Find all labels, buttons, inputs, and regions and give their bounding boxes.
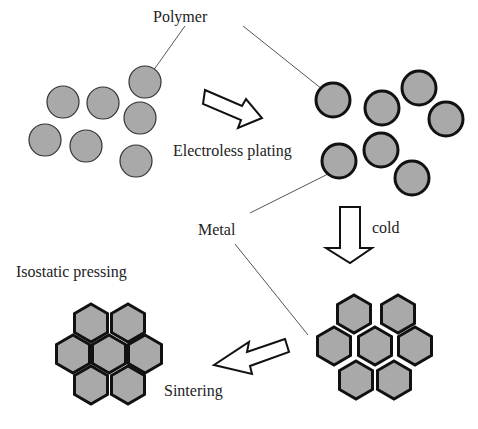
down-arrow-icon [326,207,372,263]
sintering-label: Sintering [164,382,223,400]
pressed-hex-cluster [318,295,432,399]
isostatic-pressing-label: Isostatic pressing [16,263,127,281]
polymer-label: Polymer [153,8,207,26]
process-diagram [0,0,478,429]
electroless-plating-label: Electroless plating [173,142,292,160]
coated-particles [316,71,463,195]
metal-leader-line [250,174,328,213]
left-arrow-icon [214,339,289,374]
right-arrow-icon [203,90,262,128]
metal-leader-line-2 [235,244,308,335]
polymer-leader-line-2 [243,26,332,97]
metal-label: Metal [198,221,235,239]
sintered-hex-cluster [57,304,162,404]
polymer-particles [29,66,161,177]
cold-label: cold [372,219,400,237]
